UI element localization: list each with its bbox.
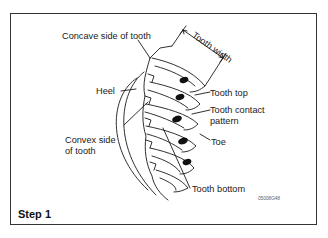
figure-code: 05008G48 (258, 195, 280, 201)
label-convex-side-line2: of tooth (65, 146, 96, 157)
label-concave-side: Concave side of tooth (62, 31, 151, 42)
label-tooth-contact-line1: Tooth contact (210, 105, 265, 116)
label-tooth-contact-line2: pattern (210, 116, 239, 127)
ring-gear-teeth-drawing (0, 0, 328, 238)
label-tooth-top: Tooth top (210, 88, 248, 99)
label-tooth-bottom: Tooth bottom (192, 184, 245, 195)
label-toe: Toe (211, 137, 226, 148)
label-heel: Heel (96, 86, 115, 97)
label-convex-side-line1: Convex side (65, 135, 116, 146)
step-caption: Step 1 (18, 208, 51, 220)
